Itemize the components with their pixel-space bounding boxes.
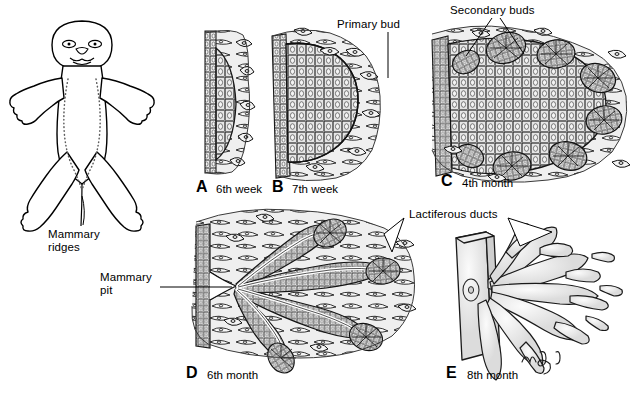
panel-letter-e: E: [446, 364, 457, 382]
lactiferous-ducts-d: [234, 214, 401, 378]
embryology-figure: Mammary ridges Primary bud Secondary bud…: [0, 0, 644, 404]
panel-caption-d: 6th month: [207, 369, 258, 381]
secondary-buds: [448, 28, 624, 184]
duct-tree: [478, 224, 622, 380]
annotation-mammary-pit: Mammary pit: [100, 271, 152, 297]
lactiferous-ducts-leaders: [384, 218, 552, 252]
panel-caption-a: 6th week: [216, 183, 262, 195]
secondary-buds-leaders: [466, 18, 524, 56]
panel-e-illustration: [456, 224, 622, 380]
panel-letter-b: B: [272, 178, 284, 196]
mammary-ridge-lines: [64, 79, 100, 190]
mammary-ridges-leader: [82, 196, 84, 225]
annotation-secondary-buds: Secondary buds: [450, 4, 535, 17]
annotation-mammary-ridges: Mammary ridges: [48, 228, 100, 254]
panel-b-illustration: [272, 28, 380, 180]
panel-caption-c: 4th month: [462, 177, 513, 189]
panel-letter-c: C: [441, 172, 453, 190]
panel-caption-e: 8th month: [467, 369, 518, 381]
panel-a-illustration: [205, 30, 255, 174]
figure-artwork: [0, 0, 644, 404]
panel-c-illustration: [432, 26, 630, 183]
annotation-primary-bud: Primary bud: [337, 18, 400, 31]
panel-caption-b: 7th week: [292, 183, 338, 195]
panel-letter-d: D: [186, 364, 198, 382]
artist-signature: [522, 352, 560, 374]
fetus-illustration: [10, 21, 154, 231]
annotation-lactiferous-ducts: Lactiferous ducts: [409, 208, 498, 221]
panel-d-illustration: [192, 209, 416, 378]
panel-letter-a: A: [196, 178, 208, 196]
